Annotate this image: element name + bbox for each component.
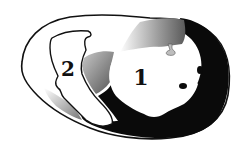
label-cavity-1: 1 (133, 64, 148, 90)
papillary-spot (179, 83, 187, 89)
cross-section-diagram: 1 2 (0, 0, 248, 159)
papillary-spot-2 (197, 66, 203, 74)
label-cavity-2: 2 (61, 57, 75, 81)
